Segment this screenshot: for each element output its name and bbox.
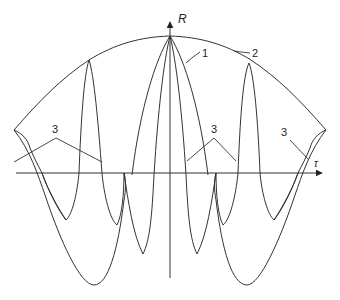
leader-3-center (187, 138, 236, 161)
y-axis-label: R (178, 12, 187, 26)
curve-label-1: 1 (202, 47, 208, 59)
leader-1 (186, 52, 200, 63)
wiggle-right (274, 148, 310, 220)
curve-label-3-left: 3 (52, 123, 58, 135)
wiggle-left (30, 148, 66, 220)
autocorrelation-diagram: R τ 1 2 3 3 3 (0, 0, 340, 300)
x-axis-label: τ (314, 158, 319, 169)
curve-label-3-right: 3 (281, 126, 287, 138)
curve-label-3-center: 3 (211, 123, 217, 135)
leader-3-right (290, 140, 309, 160)
curve-label-2: 2 (252, 47, 258, 59)
